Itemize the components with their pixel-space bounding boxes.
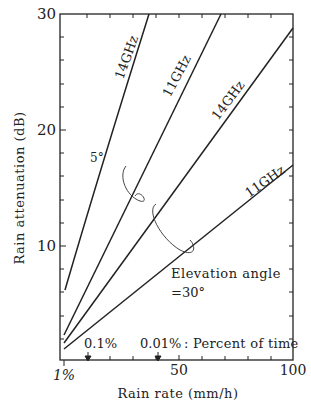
label-14ghz-30deg: 14GHz: [208, 78, 247, 123]
label-14ghz-5deg: 14GHz: [112, 33, 142, 81]
rain-attenuation-chart: 30 20 10 50 100 1% Rain rate (mm/h) Rain…: [0, 0, 311, 408]
y-tick-10: 10: [37, 237, 56, 255]
label-5deg: 5°: [90, 151, 104, 165]
pct-0-01: 0.01%: [140, 336, 181, 351]
label-11ghz-5deg: 11GHz: [159, 52, 193, 99]
y-tick-30: 30: [37, 5, 56, 23]
x-axis-label: Rain rate (mm/h): [117, 386, 238, 401]
pct-1: 1%: [53, 367, 75, 383]
y-axis-label: Rain attenuation (dB): [12, 111, 27, 264]
loop-5deg: [123, 166, 144, 201]
pct-0-1: 0.1%: [84, 336, 117, 351]
label-elevation: Elevation angle: [171, 266, 281, 281]
pct-legend: : Percent of time: [184, 336, 299, 351]
y-tick-20: 20: [37, 121, 56, 139]
label-11ghz-30deg: 11GHz: [242, 162, 288, 200]
x-tick-100: 100: [280, 362, 307, 378]
percent-arrows: [64, 352, 161, 366]
label-30deg: =30°: [171, 285, 205, 300]
x-tick-50: 50: [170, 362, 188, 378]
